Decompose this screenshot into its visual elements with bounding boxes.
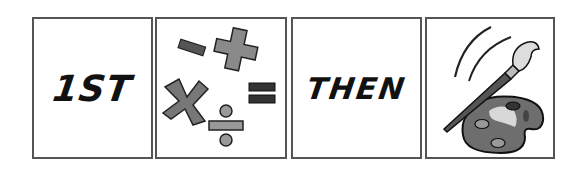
minus-icon [178,39,206,56]
multiply-icon [163,79,208,125]
card-first[interactable]: 1ST [32,17,153,159]
paintbrush-palette-icon [427,19,553,157]
divide-icon [209,105,243,146]
card-math[interactable] [155,17,287,159]
math-symbols-icon [157,19,285,157]
card-then[interactable]: THEN [291,17,422,159]
card-art[interactable] [425,17,555,159]
first-label: 1ST [31,68,154,109]
equals-icon [249,83,275,103]
plus-icon [211,25,261,74]
then-label: THEN [291,71,423,106]
